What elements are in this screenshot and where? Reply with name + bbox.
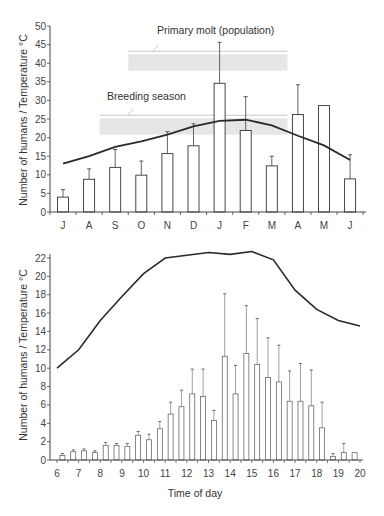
bar	[240, 131, 251, 212]
bar	[309, 406, 314, 460]
y-tick-label: 6	[40, 399, 46, 410]
bar	[298, 401, 303, 460]
x-tick-label: A	[86, 220, 93, 231]
annotation-breeding-season: Breeding season	[107, 90, 186, 102]
y-tick-label: 25	[35, 114, 47, 125]
x-tick-label: 13	[203, 468, 215, 479]
y-tick-label: 30	[35, 95, 47, 106]
x-tick-label: M	[268, 220, 276, 231]
y-tick-label: 12	[35, 344, 47, 355]
y-tick-label: 4	[40, 418, 46, 429]
temperature-polyline	[57, 252, 360, 369]
annotation-leader-line	[153, 45, 158, 51]
y-axis-title: Number of humans / Temperature °C	[17, 269, 29, 441]
x-tick-label: J	[61, 220, 66, 231]
y-tick-label: 50	[35, 21, 47, 32]
x-tick-label: 14	[225, 468, 237, 479]
temperature-line	[57, 252, 360, 369]
x-tick-label: 20	[354, 468, 366, 479]
bar	[211, 421, 216, 460]
bar	[255, 365, 260, 460]
y-tick-label: 8	[40, 381, 46, 392]
x-tick-label: 18	[311, 468, 323, 479]
x-tick-label: 17	[290, 468, 302, 479]
y-tick-label: 2	[40, 436, 46, 447]
y-axis-title: Number of humans / Temperature °C	[17, 34, 29, 206]
bar	[233, 394, 238, 460]
bar	[320, 428, 325, 460]
figure: 05101520253035404550JASONDJFMAMJ Primary…	[0, 0, 384, 516]
bar	[136, 175, 147, 212]
bar	[60, 455, 65, 460]
bar	[345, 179, 356, 212]
bar	[352, 453, 357, 460]
bar	[162, 154, 173, 212]
x-tick-label: 10	[138, 468, 150, 479]
x-axis-title: Time of day	[168, 487, 223, 499]
bar	[125, 446, 130, 460]
y-tick-label: 22	[35, 253, 47, 264]
y-tick-label: 0	[40, 455, 46, 466]
x-tick-label: 8	[98, 468, 104, 479]
bar	[58, 197, 69, 212]
y-tick-label: 14	[35, 326, 47, 337]
bar	[146, 440, 151, 460]
x-tick-label: J	[348, 220, 353, 231]
bar	[190, 394, 195, 460]
x-tick-label: J	[217, 220, 222, 231]
bar	[188, 146, 199, 212]
bar	[244, 353, 249, 460]
bar	[292, 115, 303, 212]
bar	[201, 397, 206, 460]
x-tick-label: 19	[333, 468, 345, 479]
y-tick-label: 10	[35, 363, 47, 374]
y-tick-label: 0	[40, 207, 46, 218]
x-tick-label: F	[243, 220, 249, 231]
bar	[276, 382, 281, 460]
y-tick-label: 35	[35, 76, 47, 87]
bar	[92, 453, 97, 460]
bar	[319, 106, 330, 212]
bar	[341, 453, 346, 460]
x-tick-label: N	[164, 220, 171, 231]
y-tick-label: 20	[35, 271, 47, 282]
y-tick-label: 5	[40, 188, 46, 199]
x-tick-label: M	[320, 220, 328, 231]
y-tick-label: 45	[35, 39, 47, 50]
annotation-primary-molt: Primary molt (population)	[157, 24, 274, 36]
bar	[330, 456, 335, 460]
bar	[266, 166, 277, 212]
bar	[168, 414, 173, 460]
x-tick-label: D	[190, 220, 197, 231]
bar	[136, 435, 141, 460]
primary-molt-band	[128, 54, 287, 70]
x-tick-label: 15	[246, 468, 258, 479]
bar	[84, 179, 95, 212]
x-tick-label: 7	[76, 468, 82, 479]
y-tick-label: 16	[35, 308, 47, 319]
y-tick-label: 10	[35, 169, 47, 180]
annotation-leader-line	[128, 109, 133, 115]
top-chart: 05101520253035404550JASONDJFMAMJ Primary…	[17, 21, 366, 232]
x-tick-label: 6	[54, 468, 60, 479]
x-tick-label: 16	[268, 468, 280, 479]
x-tick-label: S	[112, 220, 119, 231]
bar	[214, 83, 225, 212]
y-tick-label: 40	[35, 58, 47, 69]
x-tick-label: O	[137, 220, 145, 231]
x-tick-label: 12	[181, 468, 193, 479]
bar	[179, 407, 184, 460]
x-tick-label: 9	[119, 468, 125, 479]
bar	[157, 429, 162, 460]
x-tick-label: 11	[160, 468, 171, 479]
y-tick-label: 15	[35, 151, 47, 162]
bar-series	[60, 294, 357, 460]
bar	[103, 445, 108, 460]
bottom-chart: 0246810121416182022678910111213141516171…	[17, 252, 366, 499]
x-tick-label: A	[295, 220, 302, 231]
bar	[82, 451, 87, 460]
bar	[71, 452, 76, 460]
bar	[287, 401, 292, 460]
bar	[222, 356, 227, 460]
bar	[110, 167, 121, 212]
